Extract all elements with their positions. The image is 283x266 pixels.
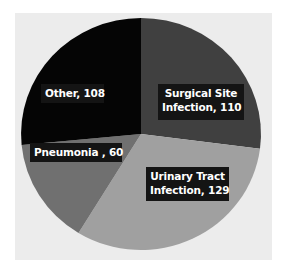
data-label-surgical-site-infection: Surgical Site Infection, 110 <box>158 84 244 120</box>
label-line: Urinary Tract <box>150 169 225 183</box>
label-line: Other, 108 <box>45 86 100 100</box>
data-label-pneumonia: Pneumonia , 60 <box>30 143 122 162</box>
label-line: Pneumonia , 60 <box>34 145 118 159</box>
label-line: Surgical Site <box>162 86 240 100</box>
data-label-urinary-tract-infection: Urinary Tract Infection, 129 <box>146 167 229 201</box>
pie-chart <box>0 0 283 266</box>
label-line: Infection, 129 <box>150 183 225 197</box>
label-line: Infection, 110 <box>162 100 240 114</box>
data-label-other: Other, 108 <box>41 84 104 103</box>
slice-other <box>21 18 141 145</box>
